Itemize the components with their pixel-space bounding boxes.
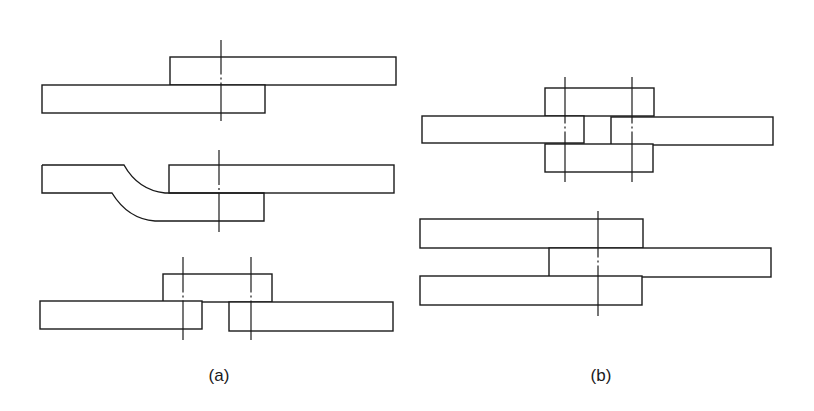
- lower-plate: [42, 85, 265, 113]
- double-lap-joint: [420, 211, 771, 316]
- left-plate: [40, 301, 202, 329]
- upper-plate: [169, 165, 394, 193]
- upper-plate: [170, 57, 396, 85]
- cover-plate: [163, 274, 272, 302]
- caption-b: (b): [591, 367, 612, 384]
- right-plate: [611, 117, 773, 145]
- upper-cover-plate: [545, 88, 654, 116]
- panel-a-single-shear-joints: [40, 40, 396, 340]
- caption-a: (a): [209, 367, 230, 384]
- lower-cover-plate: [545, 144, 653, 172]
- right-plate: [229, 302, 393, 331]
- upper-plate: [420, 219, 643, 248]
- middle-plate: [549, 248, 771, 277]
- lap-joint: [42, 40, 396, 121]
- joint-diagram: [0, 0, 814, 411]
- lower-plate: [420, 276, 642, 305]
- left-plate: [422, 116, 584, 143]
- single-cover-butt-joint: [40, 257, 393, 340]
- panel-b-double-shear-joints: [420, 77, 773, 316]
- joggled-lap-joint: [42, 150, 394, 232]
- double-cover-butt-joint: [422, 77, 773, 182]
